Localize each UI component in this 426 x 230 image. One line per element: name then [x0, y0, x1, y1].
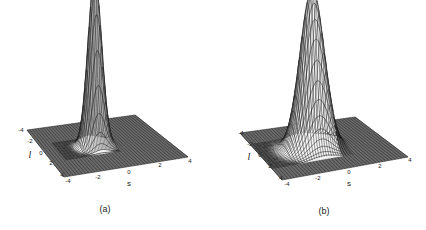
s-tick-label: -2	[95, 174, 100, 180]
s-tick-label: 0	[127, 169, 130, 175]
s-tick-label: 2	[158, 162, 161, 168]
s-tick-label: 2	[378, 163, 381, 169]
s-axis-label: s	[127, 180, 131, 188]
panel-caption: (a)	[100, 204, 111, 214]
s-tick-label: -4	[65, 178, 70, 184]
s-tick-label: 4	[188, 158, 191, 164]
surface-plot-b	[240, 0, 408, 180]
s-tick-label: 4	[408, 157, 411, 163]
l-tick-label: 2	[268, 163, 271, 169]
l-axis-label: l	[29, 150, 32, 160]
l-tick-label: -4	[238, 130, 243, 136]
panel-caption: (b)	[319, 206, 330, 216]
surface-plot-a	[27, 0, 188, 177]
l-tick-label: 0	[39, 150, 42, 156]
l-tick-label: -4	[18, 127, 23, 133]
l-tick-label: 4	[279, 175, 282, 181]
s-tick-label: -4	[284, 181, 289, 187]
l-tick-label: 4	[60, 172, 63, 178]
s-axis-label: s	[347, 180, 351, 188]
l-tick-label: 0	[258, 152, 261, 158]
figure-surfaces	[0, 0, 426, 230]
l-tick-label: -2	[247, 141, 252, 147]
l-tick-label: -2	[27, 138, 32, 144]
l-tick-label: 2	[49, 160, 52, 166]
s-tick-label: -2	[315, 175, 320, 181]
l-axis-label: l	[248, 152, 251, 162]
s-tick-label: 0	[347, 169, 350, 175]
